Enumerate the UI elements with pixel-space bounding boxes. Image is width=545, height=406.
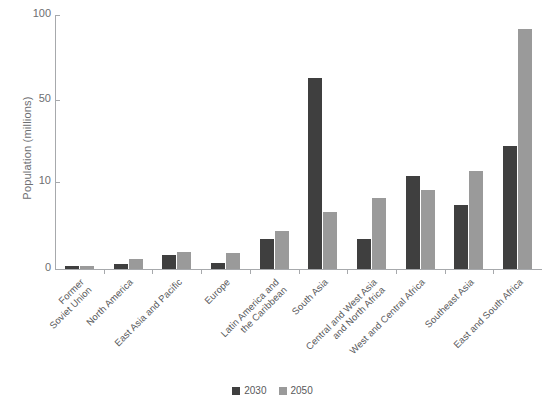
- bar-2030: [114, 264, 128, 269]
- y-axis-title: Population (millions): [21, 53, 33, 243]
- x-tick-mark: [445, 269, 446, 274]
- legend-item-2030: 2030: [232, 385, 266, 396]
- x-tick-mark: [152, 269, 153, 274]
- x-tick-mark: [104, 269, 105, 274]
- bar-2030: [406, 176, 420, 269]
- y-tick-label: 0: [45, 261, 51, 273]
- x-tick-mark: [493, 269, 494, 274]
- y-axis-tick: 100: [0, 15, 60, 16]
- legend-label: 2050: [291, 385, 313, 396]
- bar-2030: [454, 205, 468, 269]
- bar-2050: [129, 259, 143, 269]
- bar-2050: [80, 266, 94, 269]
- bar-2030: [211, 263, 225, 269]
- x-tick-mark: [250, 269, 251, 274]
- plot-area: [55, 15, 542, 269]
- legend-label: 2030: [244, 385, 266, 396]
- chart-legend: 20302050: [0, 385, 545, 396]
- y-axis-tick: 10: [0, 182, 60, 183]
- x-tick-mark: [299, 269, 300, 274]
- x-tick-mark: [396, 269, 397, 274]
- bar-2030: [308, 78, 322, 269]
- bar-2030: [260, 239, 274, 269]
- bar-2030: [162, 255, 176, 269]
- legend-swatch-icon: [232, 387, 240, 395]
- legend-swatch-icon: [279, 387, 287, 395]
- bar-chart: Population (millions) 10050100 Former So…: [0, 0, 545, 406]
- y-tick-label: 100: [33, 7, 51, 19]
- bar-2050: [177, 252, 191, 269]
- y-axis-tick: 0: [0, 269, 60, 270]
- bar-2030: [65, 266, 79, 269]
- bar-2050: [518, 29, 532, 269]
- bar-2050: [372, 198, 386, 269]
- bar-2050: [421, 190, 435, 269]
- y-tick-label: 50: [39, 92, 51, 104]
- x-axis-label: East and South Africa: [412, 277, 525, 390]
- y-axis-tick: 50: [0, 100, 60, 101]
- bar-2050: [469, 171, 483, 269]
- x-tick-mark: [201, 269, 202, 274]
- bar-2030: [357, 239, 371, 269]
- bar-2050: [226, 253, 240, 269]
- x-tick-mark: [347, 269, 348, 274]
- y-tick-mark: [55, 269, 60, 270]
- legend-item-2050: 2050: [279, 385, 313, 396]
- y-tick-label: 10: [39, 174, 51, 186]
- bar-2030: [503, 146, 517, 269]
- bar-2050: [275, 231, 289, 269]
- bar-2050: [323, 212, 337, 269]
